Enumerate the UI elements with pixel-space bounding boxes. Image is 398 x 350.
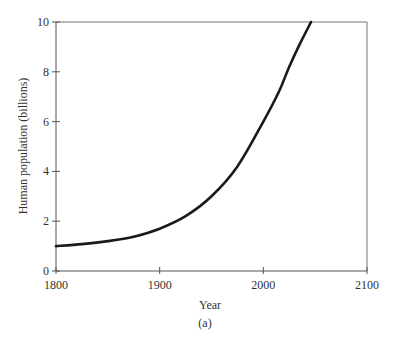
y-axis-title: Human population (billions)	[16, 78, 30, 215]
x-tick-label: 2000	[251, 278, 275, 292]
population-chart: 0246810 1800190020002100 Human populatio…	[0, 0, 398, 350]
x-tick-label: 1800	[44, 278, 68, 292]
x-axis-title: Year	[199, 298, 221, 312]
y-tick-label: 8	[43, 65, 49, 79]
x-tick-label: 2100	[355, 278, 379, 292]
plot-frame	[56, 22, 367, 271]
y-ticks: 0246810	[37, 15, 60, 278]
y-tick-label: 6	[43, 115, 49, 129]
y-tick-label: 10	[37, 15, 49, 29]
population-curve	[56, 22, 311, 246]
y-tick-label: 4	[43, 164, 49, 178]
figure-caption: (a)	[198, 316, 211, 330]
y-tick-label: 0	[43, 264, 49, 278]
y-tick-label: 2	[43, 214, 49, 228]
x-tick-label: 1900	[148, 278, 172, 292]
